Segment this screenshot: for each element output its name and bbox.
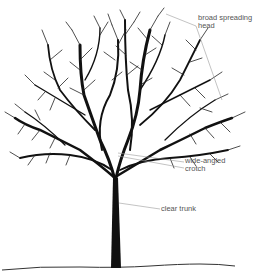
tree-diagram: broad spreading head wide-angled crotch … bbox=[0, 0, 261, 276]
label-broad-spreading-head: broad spreading head bbox=[198, 14, 252, 30]
label-wide-angled-crotch: wide-angled crotch bbox=[185, 157, 225, 173]
leader-line-trunk bbox=[119, 203, 160, 209]
tree-illustration bbox=[0, 0, 261, 276]
trunk bbox=[111, 178, 121, 268]
leader-lines bbox=[118, 14, 222, 209]
label-clear-trunk: clear trunk bbox=[161, 205, 196, 213]
